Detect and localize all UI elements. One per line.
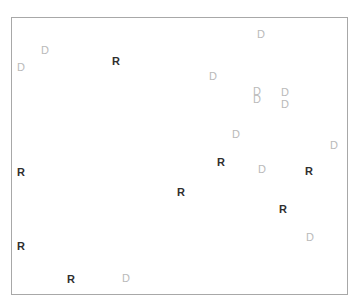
scatter-point-r: R [177, 187, 185, 198]
scatter-point-d: D [17, 62, 25, 73]
scatter-point-r: R [17, 167, 25, 178]
scatter-point-d: D [253, 94, 261, 105]
scatter-point-r: R [305, 166, 313, 177]
plot-data-area: RRRRRRRRDDDDDDDDDDDDD [0, 0, 361, 307]
scatter-point-r: R [279, 204, 287, 215]
scatter-point-r: R [67, 274, 75, 285]
scatter-point-d: D [209, 71, 217, 82]
scatter-point-d: D [232, 129, 240, 140]
scatter-point-d: D [281, 87, 289, 98]
scatter-point-d: D [258, 164, 266, 175]
scatter-point-r: R [17, 241, 25, 252]
scatter-point-d: D [306, 232, 314, 243]
scatter-point-d: D [122, 273, 130, 284]
scatter-point-d: D [257, 29, 265, 40]
scatter-point-d: D [281, 99, 289, 110]
scatter-plot-root: RRRRRRRRDDDDDDDDDDDDD [0, 0, 361, 307]
scatter-point-r: R [112, 56, 120, 67]
scatter-point-r: R [217, 157, 225, 168]
scatter-point-d: D [330, 140, 338, 151]
scatter-point-d: D [41, 45, 49, 56]
